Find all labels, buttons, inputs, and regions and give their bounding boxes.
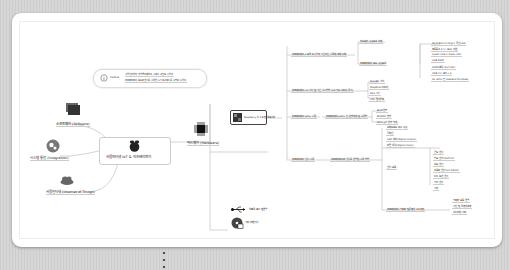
topic-4-sub[interactable]: 라즈베리파이와 센서를 연결 및 활용 방법 xyxy=(330,157,370,162)
pager-dot-1[interactable] xyxy=(163,252,165,254)
leaf[interactable]: VNC 원격접속 xyxy=(369,97,385,102)
pager-dot-3[interactable] xyxy=(163,266,165,268)
topic-1[interactable]: 라즈베리파이 3 모델 B 사양과 기본적인 활용에 대해 이해 xyxy=(291,52,347,57)
leaf[interactable]: 가스 센서 xyxy=(433,180,444,185)
board-icon xyxy=(233,113,242,122)
chip-icon xyxy=(194,122,208,136)
topic-4[interactable]: 라즈베리파이 센서 활용 xyxy=(291,157,315,162)
leaf[interactable]: 1GB RAM xyxy=(431,59,445,63)
topic-1-sub-1[interactable]: 하드웨어 구성요소 이해 xyxy=(359,39,383,44)
leaf[interactable]: 기타 xyxy=(433,186,439,191)
folder-stack-icon xyxy=(66,103,80,115)
hardware-child[interactable]: Raspberry Pi 3 B 및 액세서리 xyxy=(230,110,267,125)
leaf[interactable]: 브레드보드 회로 구성 xyxy=(386,125,408,130)
leaf[interactable]: 카메라 모듈 연결 xyxy=(452,198,470,203)
group-sensors[interactable]: 센서 모듈 xyxy=(386,165,397,170)
leaf[interactable]: Quad Core 1.2GHz CPU xyxy=(431,53,462,57)
branch-integration-label[interactable]: 시스템 통합 (Integration) xyxy=(30,155,69,161)
usb-icon xyxy=(231,206,247,213)
callout-line-2: 라즈베리파이 보드와 센서를 활용한 IoT 프로젝트를 수행할 수 있다. xyxy=(125,79,187,83)
leaf[interactable]: USB 2.0 포트 x 4 xyxy=(431,71,452,76)
info-icon xyxy=(100,74,108,82)
leaf[interactable]: LED 제어 (digital output) xyxy=(386,137,417,142)
leaf[interactable]: 초음파 센서 (HC-SR04) xyxy=(433,168,460,173)
callout-line-1: 사물인터넷의 개념을 이해하고 실제로 구현할 수 있다. xyxy=(125,73,174,77)
leaf[interactable]: 스트리밍 서버 xyxy=(452,210,467,215)
gears-icon xyxy=(46,139,60,153)
leaf[interactable]: PIR 모션 센서 xyxy=(433,174,449,179)
raspberry-icon xyxy=(129,140,140,152)
leaf[interactable]: Raspbian 이미지 xyxy=(369,85,389,90)
leaf[interactable]: BOARD 번호 xyxy=(376,114,392,119)
central-topic-label: 사물인터넷 IoT & 라즈베리파이 xyxy=(106,154,151,159)
leaf[interactable]: HDMI 출력 (Full HD) xyxy=(431,65,456,70)
leaf[interactable]: 조도 센서 xyxy=(433,162,444,167)
topic-2[interactable]: 라즈베리파이 OS 설치 및 기본 설정 방법 (SD 카드 이미지 굽기) xyxy=(291,88,354,93)
leaf[interactable]: 40 GPIO 핀 (General Purpose) xyxy=(431,77,469,82)
topic-1-sub-2[interactable]: 라즈베리파이 보드 구성 요소 xyxy=(359,61,387,66)
leaf[interactable]: NOOBS 설치 xyxy=(369,79,385,84)
pager-dot-2[interactable] xyxy=(163,259,165,261)
branch-software-label[interactable]: 소프트웨어 (Software) xyxy=(56,121,90,127)
hardware-child-label: Raspberry Pi 3 B 및 액세서리 xyxy=(244,115,275,119)
central-topic[interactable]: 사물인터넷 IoT & 라즈베리파이 xyxy=(99,137,171,165)
hardware-label[interactable]: 하드웨어 (Hardware) xyxy=(187,140,219,146)
leaf[interactable]: BCM 번호 xyxy=(376,108,388,113)
leaf[interactable]: SSH 설정 xyxy=(369,91,381,96)
cloud-icon xyxy=(60,175,74,185)
leaf[interactable]: 블루투스 4.1 / BLE 지원 xyxy=(431,47,458,52)
leaf[interactable]: Wi-Fi 802.11 b/g/n 무선 LAN xyxy=(431,41,466,46)
leaf[interactable]: 온도 센서 xyxy=(433,150,444,155)
branch-iot-label[interactable]: 사물인터넷 (Internet of Things) xyxy=(46,189,95,195)
topic-3-sub[interactable]: 라즈베리파이 GPIO 핀 번호 체계 및 활용법 xyxy=(325,114,368,119)
callout-label: Callout xyxy=(110,76,119,79)
leaf[interactable]: 습도 센서 (DHT11) xyxy=(433,156,455,161)
callout-bubble[interactable]: Callout 사물인터넷의 개념을 이해하고 실제로 구현할 수 있다. 라즈… xyxy=(93,69,207,88)
branch-peripherals-label[interactable]: 기타 주변기기 xyxy=(245,220,258,224)
topic-3[interactable]: 라즈베리파이 GPIO 활용 xyxy=(291,114,317,119)
mindmap-canvas xyxy=(12,13,502,247)
group-camera[interactable]: 라즈베리파이 카메라 및 동영상 스트리밍 xyxy=(386,207,425,212)
leaf[interactable]: 버튼 입력 (digital input) xyxy=(386,143,415,148)
leaf[interactable]: 점퍼선 xyxy=(386,131,394,136)
branch-ports-label[interactable]: 입출력 포트 및 연결 xyxy=(249,207,267,211)
disc-icon xyxy=(231,217,244,229)
leaf[interactable]: 사진 및 동영상 촬영 xyxy=(452,204,472,209)
